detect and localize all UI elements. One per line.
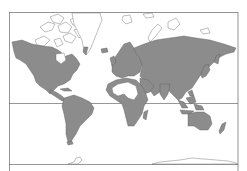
south-america: [62, 95, 94, 144]
world-map: [0, 0, 247, 171]
australia: [188, 112, 212, 130]
antarctica: [152, 158, 238, 164]
severnaya-zemlya: [168, 18, 180, 30]
cuba: [60, 88, 72, 91]
india: [160, 84, 170, 100]
svalbard: [122, 15, 132, 24]
franz-josef-land: [143, 13, 154, 18]
antarctic-peninsula: [68, 157, 82, 164]
new-siberian-islands: [200, 28, 210, 34]
new-zealand: [219, 122, 226, 134]
madagascar: [143, 110, 148, 120]
iceland: [101, 48, 108, 53]
north-america: [12, 40, 80, 94]
